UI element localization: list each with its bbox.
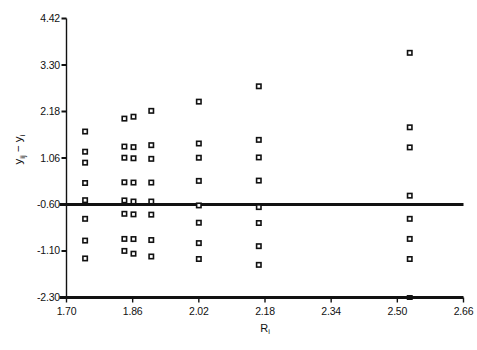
data-point <box>130 199 136 205</box>
data-point <box>121 144 127 150</box>
x-tick-label-1: 1.86 <box>119 305 147 317</box>
data-point <box>148 180 154 186</box>
data-point <box>82 197 88 203</box>
data-point <box>130 251 136 257</box>
y-axis-title-text: yij − yi <box>12 134 27 164</box>
x-tick-label-5: 2.50 <box>383 305 411 317</box>
data-point <box>148 253 154 259</box>
x-tick-label-6: 2.66 <box>450 305 477 317</box>
data-point <box>148 156 154 162</box>
data-point <box>121 116 127 122</box>
data-point <box>407 216 413 222</box>
data-point <box>407 236 413 242</box>
data-point <box>196 140 202 146</box>
data-points-group <box>82 50 413 300</box>
y-tick-label-4: -0.60 <box>26 198 60 210</box>
data-point <box>407 124 413 130</box>
y-axis-title: yij − yi <box>12 134 27 164</box>
data-point <box>196 220 202 226</box>
data-point <box>121 236 127 242</box>
data-point <box>196 240 202 246</box>
residual-scatter-figure: yij − yi 1.701.862.022.182.342.502.66 4.… <box>0 0 477 350</box>
data-point <box>196 178 202 184</box>
data-point <box>148 199 154 205</box>
data-point <box>130 114 136 120</box>
baseline-filled-marker <box>407 295 413 300</box>
data-point <box>148 142 154 148</box>
data-point <box>121 155 127 161</box>
reference-lines-group <box>60 205 464 298</box>
data-point <box>196 256 202 262</box>
data-point <box>148 108 154 114</box>
data-point <box>82 216 88 222</box>
x-tick-label-4: 2.34 <box>317 305 345 317</box>
x-axis-title-subscript: i <box>268 327 270 336</box>
data-point <box>256 204 262 210</box>
data-point <box>130 236 136 242</box>
plot-canvas: yij − yi <box>0 0 477 350</box>
data-point <box>121 179 127 185</box>
data-point <box>196 202 202 208</box>
x-tick-label-0: 1.70 <box>53 305 81 317</box>
data-point <box>407 144 413 150</box>
data-point <box>82 180 88 186</box>
data-point <box>130 155 136 161</box>
data-point <box>148 237 154 243</box>
x-tick-label-3: 2.18 <box>251 305 279 317</box>
data-point <box>256 178 262 184</box>
y-tick-label-0: 4.42 <box>26 12 60 24</box>
x-axis-title: Ri <box>251 322 279 336</box>
data-point <box>256 154 262 160</box>
data-point <box>121 211 127 217</box>
data-point <box>121 248 127 254</box>
data-point <box>256 243 262 249</box>
data-point <box>196 99 202 105</box>
data-point <box>256 137 262 143</box>
data-point <box>130 144 136 150</box>
data-point <box>130 180 136 186</box>
data-point <box>82 255 88 261</box>
x-axis-title-base: R <box>260 322 268 334</box>
data-point <box>82 129 88 135</box>
data-point <box>130 211 136 217</box>
x-tick-label-2: 2.02 <box>185 305 213 317</box>
y-tick-label-1: 3.30 <box>26 59 60 71</box>
data-point <box>148 212 154 218</box>
data-point <box>256 220 262 226</box>
data-point <box>407 50 413 56</box>
data-point <box>196 155 202 161</box>
y-tick-label-2: 2.18 <box>26 105 60 117</box>
y-tick-label-5: -1.10 <box>26 244 60 256</box>
data-point <box>82 149 88 155</box>
data-point <box>82 160 88 166</box>
data-point <box>407 193 413 199</box>
data-point <box>82 238 88 244</box>
data-point <box>256 83 262 89</box>
data-point <box>256 262 262 268</box>
y-tick-label-6: -2.30 <box>26 291 60 303</box>
y-tick-label-3: 1.06 <box>26 152 60 164</box>
data-point <box>121 197 127 203</box>
data-point <box>407 256 413 262</box>
